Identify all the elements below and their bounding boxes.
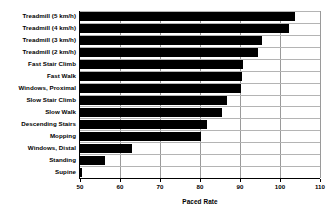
bar: [80, 48, 258, 57]
category-label: Windows, Distal: [0, 144, 76, 151]
bar: [80, 120, 207, 129]
category-label: Treadmill (4 km/h): [0, 24, 76, 31]
category-label: Treadmill (5 km/h): [0, 12, 76, 19]
x-tick-label-60: 60: [110, 183, 130, 190]
y-axis-line: [79, 11, 80, 179]
bar: [80, 168, 82, 177]
x-axis-title: Paced Rate: [80, 198, 320, 205]
category-label: Supine: [0, 168, 76, 175]
x-tick-50: [80, 179, 81, 182]
x-tick-label-90: 90: [230, 183, 250, 190]
bar: [80, 24, 289, 33]
row-line: [80, 154, 320, 155]
row-line: [80, 130, 320, 131]
x-tick-60: [120, 179, 121, 182]
horizontal-bar-chart: Treadmill (5 km/h)Treadmill (4 km/h)Trea…: [0, 0, 332, 216]
category-label: Slow Walk: [0, 108, 76, 115]
row-line: [80, 118, 320, 119]
bar: [80, 156, 105, 165]
category-label: Windows, Proximal: [0, 84, 76, 91]
category-label: Standing: [0, 156, 76, 163]
x-tick-label-100: 100: [270, 183, 290, 190]
x-tick-70: [160, 179, 161, 182]
category-label: Slow Stair Climb: [0, 96, 76, 103]
bar: [80, 132, 201, 141]
row-line: [80, 106, 320, 107]
category-label: Treadmill (2 km/h): [0, 48, 76, 55]
row-line: [80, 142, 320, 143]
bar: [80, 60, 243, 69]
bar: [80, 108, 222, 117]
bar: [80, 36, 262, 45]
category-axis-labels: Treadmill (5 km/h)Treadmill (4 km/h)Trea…: [0, 10, 76, 178]
row-line: [80, 166, 320, 167]
x-tick-label-80: 80: [190, 183, 210, 190]
bar: [80, 72, 242, 81]
x-tick-80: [200, 179, 201, 182]
bar: [80, 144, 132, 153]
x-tick-90: [240, 179, 241, 182]
bar: [80, 12, 295, 21]
x-tick-100: [280, 179, 281, 182]
x-tick-110: [320, 179, 321, 182]
x-tick-label-110: 110: [310, 183, 330, 190]
x-tick-label-50: 50: [70, 183, 90, 190]
gridline-110: [320, 11, 321, 178]
category-label: Mopping: [0, 132, 76, 139]
category-label: Fast Walk: [0, 72, 76, 79]
bar: [80, 84, 241, 93]
category-label: Treadmill (3 km/h): [0, 36, 76, 43]
bar: [80, 96, 227, 105]
category-label: Fast Stair Climb: [0, 60, 76, 67]
x-tick-label-70: 70: [150, 183, 170, 190]
plot-area: 5060708090100110: [80, 11, 320, 178]
category-label: Descending Stairs: [0, 120, 76, 127]
